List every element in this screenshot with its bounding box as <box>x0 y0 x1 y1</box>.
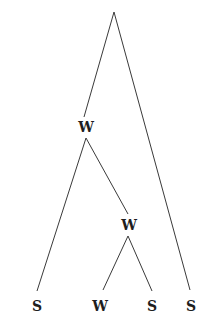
edge-root-to-w1 <box>84 12 114 117</box>
leaf-s3-strong: S <box>147 299 157 313</box>
leaf-s1-strong: S <box>32 299 42 313</box>
edge-w1-to-s1 <box>37 138 86 291</box>
node-w1-weak: W <box>78 120 94 134</box>
tree-edges <box>0 0 211 323</box>
leaf-w3-weak: W <box>92 299 108 313</box>
leaf-s4-strong: S <box>186 299 196 313</box>
edge-w1-to-w2 <box>86 138 128 214</box>
edge-w2-to-w3 <box>103 236 128 290</box>
edge-w2-to-s3 <box>128 236 152 291</box>
edge-root-to-s4 <box>114 12 190 290</box>
tree-diagram: W W S W S S <box>0 0 211 323</box>
node-w2-weak: W <box>121 218 137 232</box>
